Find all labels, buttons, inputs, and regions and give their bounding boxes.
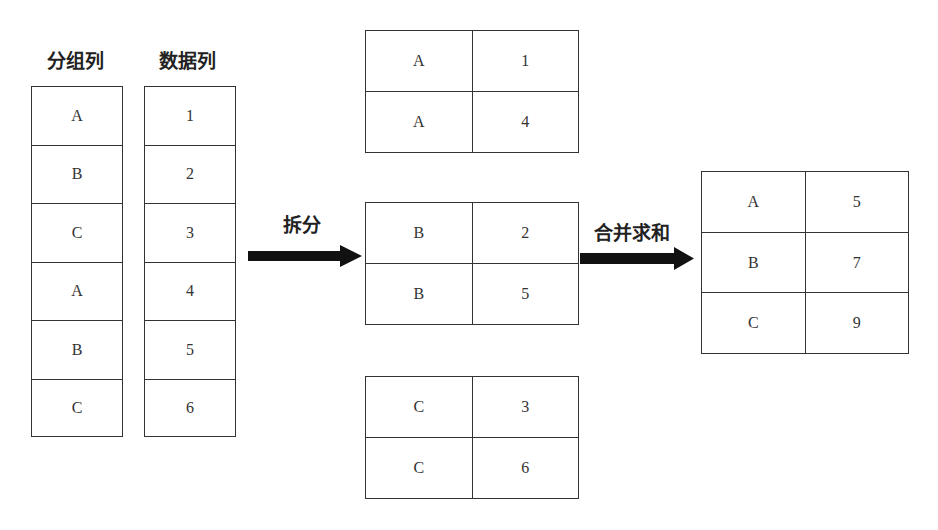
split-arrow-icon [246, 243, 364, 269]
split-table-a: A 1 A 4 [365, 30, 579, 153]
value-cell: 4 [473, 92, 579, 152]
value-cell: 3 [473, 377, 579, 437]
group-column-header: 分组列 [47, 50, 104, 72]
table-row: C 6 [366, 438, 578, 498]
source-group-cell: B [32, 146, 122, 205]
combine-arrow-icon [578, 245, 696, 272]
table-row: B 7 [702, 233, 908, 293]
combine-step-label: 合并求和 [594, 222, 670, 244]
key-cell: B [702, 233, 806, 292]
table-row: C 9 [702, 293, 908, 353]
table-row: B 2 [366, 203, 578, 264]
table-row: B 5 [366, 264, 578, 324]
source-group-cell: C [32, 380, 122, 437]
key-cell: A [702, 172, 806, 232]
value-cell: 7 [806, 233, 909, 292]
source-data-cell: 2 [145, 146, 235, 205]
source-data-column: 1 2 3 4 5 6 [144, 86, 236, 437]
value-cell: 5 [473, 264, 579, 324]
value-cell: 5 [806, 172, 909, 232]
source-data-cell: 3 [145, 204, 235, 263]
split-step-label: 拆分 [283, 214, 321, 236]
value-cell: 6 [473, 438, 579, 498]
source-group-cell: C [32, 204, 122, 263]
split-table-c: C 3 C 6 [365, 376, 579, 499]
key-cell: C [366, 377, 473, 437]
split-table-b: B 2 B 5 [365, 202, 579, 325]
value-cell: 9 [806, 293, 909, 353]
table-row: C 3 [366, 377, 578, 438]
source-data-cell: 6 [145, 380, 235, 437]
table-row: A 1 [366, 31, 578, 92]
data-column-header: 数据列 [159, 50, 216, 72]
source-data-cell: 1 [145, 87, 235, 146]
value-cell: 1 [473, 31, 579, 91]
key-cell: C [702, 293, 806, 353]
result-table: A 5 B 7 C 9 [701, 171, 909, 354]
table-row: A 4 [366, 92, 578, 152]
key-cell: A [366, 31, 473, 91]
key-cell: C [366, 438, 473, 498]
source-group-column: A B C A B C [31, 86, 123, 437]
table-row: A 5 [702, 172, 908, 233]
source-group-cell: B [32, 321, 122, 380]
key-cell: B [366, 264, 473, 324]
source-group-cell: A [32, 263, 122, 322]
key-cell: A [366, 92, 473, 152]
key-cell: B [366, 203, 473, 263]
source-group-cell: A [32, 87, 122, 146]
source-data-cell: 4 [145, 263, 235, 322]
value-cell: 2 [473, 203, 579, 263]
source-data-cell: 5 [145, 321, 235, 380]
